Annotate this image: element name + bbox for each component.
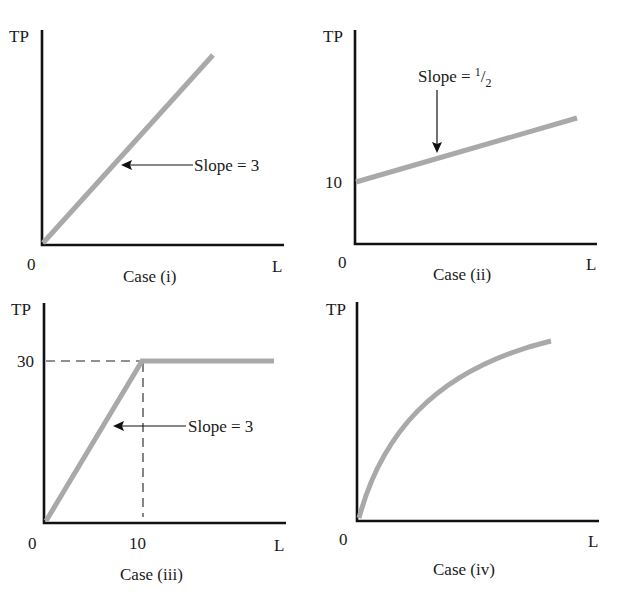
origin-label: 0 xyxy=(339,530,348,549)
y-axis-label: TP xyxy=(9,27,29,46)
slope-annotation: Slope = 3 xyxy=(194,156,259,175)
origin-label: 0 xyxy=(28,534,37,553)
tp-curve xyxy=(359,341,551,518)
y-tick-30: 30 xyxy=(17,352,34,371)
axes xyxy=(44,303,286,523)
x-axis-label: L xyxy=(274,536,284,555)
origin-label: 0 xyxy=(27,255,36,274)
y-axis-label: TP xyxy=(323,27,343,46)
axes xyxy=(355,30,597,244)
y-axis-label: TP xyxy=(11,300,31,319)
panel-case-iv: TP 0 L Case (iv) xyxy=(326,300,599,579)
tp-line xyxy=(43,55,213,243)
panel-case-iii: Slope = 3 30 TP 0 10 L Case (iii) xyxy=(11,300,286,584)
y-tick-10: 10 xyxy=(325,173,342,192)
tp-line xyxy=(356,118,577,182)
slope-annotation: Slope = 1/2 xyxy=(418,65,492,90)
panel-caption: Case (iv) xyxy=(433,560,495,579)
x-tick-10: 10 xyxy=(129,534,146,553)
slope-annotation: Slope = 3 xyxy=(188,417,253,436)
panel-caption: Case (i) xyxy=(123,267,176,286)
x-axis-label: L xyxy=(586,255,596,274)
panel-case-i: Slope = 3 TP 0 L Case (i) xyxy=(9,27,284,286)
x-axis-label: L xyxy=(272,257,282,276)
figure: Slope = 3 TP 0 L Case (i) Slope = 1/2 10… xyxy=(0,0,622,603)
panel-caption: Case (ii) xyxy=(433,265,491,284)
x-axis-label: L xyxy=(588,532,598,551)
panel-case-ii: Slope = 1/2 10 TP 0 L Case (ii) xyxy=(323,27,597,284)
axes xyxy=(42,30,284,245)
y-axis-label: TP xyxy=(326,300,346,319)
axes xyxy=(357,302,599,521)
panel-caption: Case (iii) xyxy=(120,565,183,584)
origin-label: 0 xyxy=(338,253,347,272)
tp-line xyxy=(46,361,274,521)
